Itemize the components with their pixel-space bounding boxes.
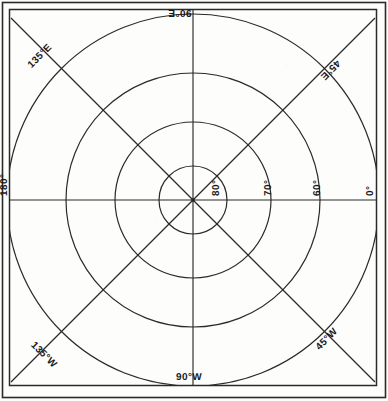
label-meridian-0: 0°: [366, 186, 376, 196]
label-meridian-180: 180°: [0, 174, 10, 196]
pole-marker: [191, 198, 195, 202]
label-latitude-80: 80°: [212, 180, 222, 196]
polar-projection-figure: 90°E 90°W 180° 0° 135°E 45°E 135°W 45°W …: [0, 0, 388, 401]
label-meridian-90e: 90°E: [168, 7, 191, 17]
label-meridian-90w: 90°W: [176, 373, 202, 383]
label-latitude-70: 70°: [264, 180, 274, 196]
label-latitude-60: 60°: [313, 180, 323, 196]
